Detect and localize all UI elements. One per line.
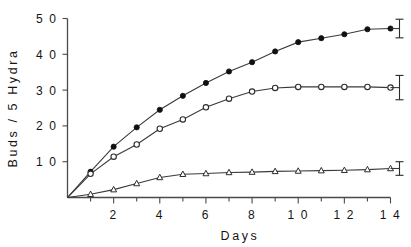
y-tick-label-50: 5 0 [36, 12, 57, 26]
x-axis-title: Days [221, 229, 260, 243]
filled-circle-series-marker [111, 144, 116, 149]
open-circle-series-line [68, 87, 391, 198]
x-axis-tick-labels: 24681 01 21 4 [110, 208, 402, 222]
x-tick-label-12: 1 2 [334, 208, 355, 222]
open-circle-series-marker [272, 85, 277, 90]
open-circle-series-marker [342, 84, 347, 89]
chart-figure: 1 02 03 04 05 0 24681 01 21 4 Days Buds … [0, 0, 411, 247]
open-circle-series-marker [226, 96, 231, 101]
open-circle-series [68, 75, 404, 197]
data-series-layer [68, 19, 404, 197]
open-circle-series-marker [249, 89, 254, 94]
filled-circle-series-marker [342, 32, 347, 37]
y-tick-label-40: 4 0 [36, 48, 57, 62]
x-tick-label-14: 1 4 [380, 208, 401, 222]
filled-circle-series-marker [365, 27, 370, 32]
open-circle-series-marker [319, 84, 324, 89]
x-tick-label-10: 1 0 [287, 208, 308, 222]
x-tick-label-6: 6 [202, 208, 210, 222]
filled-circle-series-marker [180, 93, 185, 98]
x-tick-label-2: 2 [110, 208, 118, 222]
x-tick-label-4: 4 [156, 208, 164, 222]
y-tick-label-20: 2 0 [36, 119, 57, 133]
open-triangle-series-error-bar [391, 162, 404, 176]
open-circle-series-marker [157, 126, 162, 131]
open-circle-series-marker [111, 154, 116, 159]
y-axis-tick-labels: 1 02 03 04 05 0 [36, 12, 57, 169]
open-circle-series-marker [180, 117, 185, 122]
open-circle-series-marker [134, 142, 139, 147]
open-circle-series-marker [365, 84, 370, 89]
filled-circle-series-marker [273, 49, 278, 54]
open-circle-series-error-bar [391, 75, 404, 99]
y-tick-label-30: 3 0 [36, 84, 57, 98]
filled-circle-series-marker [157, 107, 162, 112]
filled-circle-series-marker [203, 80, 208, 85]
filled-circle-series [68, 19, 404, 197]
open-circle-series-marker [296, 84, 301, 89]
filled-circle-series-marker [319, 36, 324, 41]
y-axis-title: Buds / 5 Hydra [6, 48, 20, 167]
filled-circle-series-marker [226, 69, 231, 74]
open-circle-series-marker [203, 105, 208, 110]
buds-per-hydra-line-chart: 1 02 03 04 05 0 24681 01 21 4 Days Buds … [0, 0, 411, 247]
x-axis-ticks [91, 198, 391, 204]
x-tick-label-8: 8 [248, 208, 256, 222]
filled-circle-series-marker [249, 60, 254, 65]
filled-circle-series-marker [296, 40, 301, 45]
open-triangle-series [68, 162, 404, 198]
y-axis-group: 1 02 03 04 05 0 [36, 12, 67, 198]
filled-circle-series-marker [134, 125, 139, 130]
open-circle-series-marker [88, 171, 93, 176]
x-axis-group: 24681 01 21 4 [68, 198, 402, 222]
y-tick-label-10: 1 0 [36, 155, 57, 169]
filled-circle-series-error-bar [391, 19, 404, 38]
y-axis-ticks [63, 19, 68, 162]
